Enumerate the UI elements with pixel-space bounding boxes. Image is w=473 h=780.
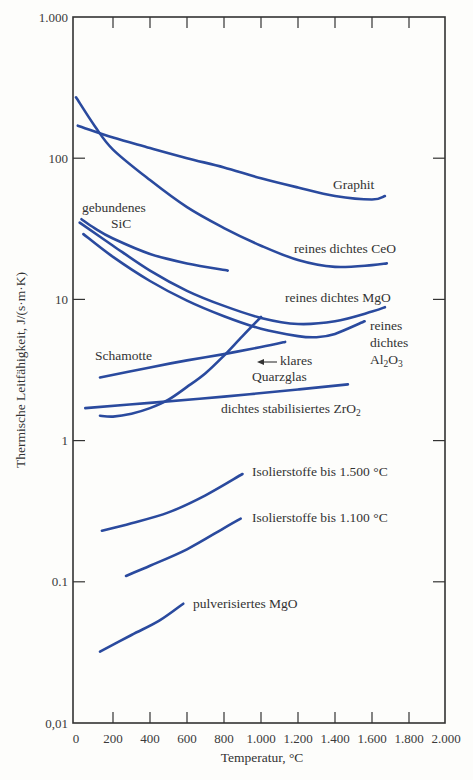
label-graphit: Graphit [333, 177, 374, 192]
label-al2o3-line1: reines [370, 318, 402, 333]
x-tick-label: 1.200 [283, 731, 312, 746]
y-tick-label: 0.1 [52, 574, 68, 589]
label-quarzglas-line1: klares [280, 353, 312, 368]
x-tick-label: 1.400 [320, 731, 349, 746]
label-ceo: reines dichtes CeO [294, 241, 396, 256]
label-iso1500: Isolierstoffe bis 1.500 °C [252, 464, 388, 479]
x-tick-label: 800 [214, 731, 234, 746]
y-tick-label: 100 [49, 151, 69, 166]
label-al2o3-line2: dichtes [370, 335, 408, 350]
x-tick-label: 400 [140, 731, 160, 746]
y-tick-label: 0,01 [45, 716, 68, 731]
quarzglas-arrow-icon [257, 359, 277, 365]
curve-pulverisiertes-mgo [100, 604, 183, 652]
curve-isolierstoffe-bis-1-100-c [126, 519, 241, 576]
label-quarzglas-line2: Quarzglas [252, 369, 307, 384]
y-tick-label: 10 [55, 292, 68, 307]
curve-reines-dichtes-mgo [80, 223, 385, 325]
x-tick-label: 600 [177, 731, 197, 746]
y-axis-tick-labels: 0,010.11101001.000 [39, 10, 68, 731]
curve-isolierstoffe-bis-1-500-c [102, 474, 243, 531]
x-tick-label: 1.800 [394, 731, 423, 746]
x-tick-label: 1.000 [246, 731, 275, 746]
x-tick-label: 200 [103, 731, 123, 746]
label-mgo: reines dichtes MgO [285, 290, 391, 305]
x-axis-tick-labels: 02004006008001.0001.2001.4001.6001.8002.… [73, 731, 461, 746]
y-tick-label: 1.000 [39, 10, 68, 25]
label-sic-line2: SiC [111, 216, 131, 231]
x-axis-title: Temperatur, °C [221, 750, 304, 765]
thermal-conductivity-chart: 02004006008001.0001.2001.4001.6001.8002.… [0, 0, 473, 780]
label-sic-line1: gebundenes [82, 200, 146, 215]
label-al2o3-line3: Al2O3 [370, 352, 403, 369]
y-axis-title: Thermische Leitfähigkeit, J/(s·m·K) [13, 272, 28, 468]
label-pulv-mgo: pulverisiertes MgO [193, 596, 298, 611]
curve-gebundenes-sic [82, 219, 228, 270]
label-zro2: dichtes stabilisiertes ZrO2 [221, 401, 361, 418]
label-iso1100: Isolierstoffe bis 1.100 °C [252, 510, 388, 525]
x-tick-label: 0 [73, 731, 80, 746]
y-tick-label: 1 [62, 433, 69, 448]
x-tick-label: 2.000 [431, 731, 460, 746]
label-schamotte: Schamotte [95, 348, 152, 363]
x-tick-label: 1.600 [357, 731, 386, 746]
